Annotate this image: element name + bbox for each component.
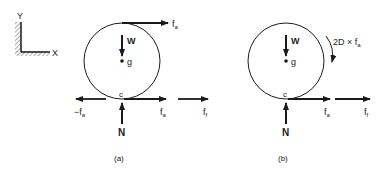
center-label: g <box>291 57 296 67</box>
center-label: g <box>127 57 132 67</box>
far-force-label: ff <box>364 107 369 118</box>
top-force-label: fa <box>172 19 179 30</box>
weight-label: W <box>291 36 300 46</box>
center-of-gravity-dot <box>284 59 288 63</box>
coordinate-axes: Y X <box>15 11 58 58</box>
weight-label: W <box>127 36 136 46</box>
caption-a: (a) <box>114 154 124 163</box>
caption-b: (b) <box>278 154 288 163</box>
contact-label: c <box>119 90 123 99</box>
panel-b: W g 2D × fa c fa ff N (b) <box>248 23 370 163</box>
y-axis-label: Y <box>17 11 23 21</box>
far-force-label: ff <box>203 107 208 118</box>
wall-hatch <box>15 22 21 52</box>
panel-a: fa W g c −fa fa ff N (a) <box>74 19 208 163</box>
moment-label: 2D × fa <box>333 37 361 48</box>
center-of-gravity-dot <box>120 59 124 63</box>
free-body-diagram: Y X fa W g c −fa fa ff N (a) W g <box>0 0 386 171</box>
right-force-label: fa <box>324 107 331 118</box>
contact-label: c <box>283 90 287 99</box>
left-force-label: −fa <box>74 107 86 118</box>
x-axis-label: X <box>52 48 58 58</box>
moment-arrow <box>326 36 333 62</box>
right-force-label: fa <box>160 107 167 118</box>
normal-label: N <box>282 127 289 138</box>
normal-label: N <box>118 127 125 138</box>
